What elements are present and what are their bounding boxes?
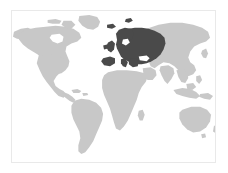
landmass-group-unselected	[13, 15, 215, 154]
region-india	[160, 65, 175, 84]
map-thumbnail-root: Europe	[0, 0, 228, 173]
region-africa[interactable]	[102, 70, 148, 130]
region-philippines	[196, 75, 202, 84]
region-greenland[interactable]	[78, 15, 100, 30]
region-south-america[interactable]	[71, 99, 103, 154]
region-svalbard[interactable]	[125, 18, 133, 23]
region-tasmania	[201, 133, 206, 138]
region-iceland[interactable]	[107, 24, 116, 29]
region-new-zealand	[213, 125, 215, 133]
world-map[interactable]	[12, 11, 215, 162]
region-caribbean	[71, 89, 81, 93]
region-iberia[interactable]	[101, 56, 115, 66]
region-new-guinea	[199, 93, 213, 100]
region-usa-mexico[interactable]	[37, 54, 67, 97]
region-hispaniola	[82, 93, 88, 96]
region-australia[interactable]	[179, 107, 211, 133]
region-arctic-islands	[48, 19, 62, 24]
map-frame: Europe	[11, 10, 216, 163]
region-japan	[201, 49, 208, 59]
region-central-america	[63, 92, 76, 103]
region-borneo	[186, 83, 196, 90]
region-indonesia	[173, 88, 200, 99]
region-madagascar	[138, 110, 145, 121]
